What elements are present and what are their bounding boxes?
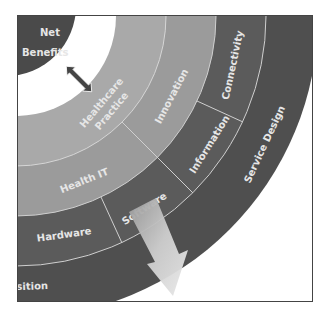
label-transition: Transition bbox=[17, 280, 48, 293]
diagram-frame: Net Benefits Healthcare Practice Innovat… bbox=[17, 15, 313, 302]
center-label-line2: Benefits bbox=[22, 47, 68, 58]
center-label-line1: Net bbox=[40, 27, 60, 38]
radial-diagram: Net Benefits Healthcare Practice Innovat… bbox=[17, 15, 313, 302]
